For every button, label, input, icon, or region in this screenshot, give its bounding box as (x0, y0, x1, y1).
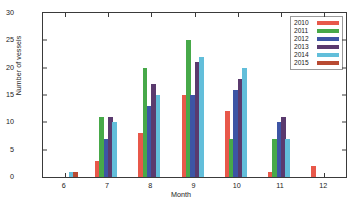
x-axis-tick-label: 12 (308, 181, 338, 190)
y-axis-title: Number of vessels (15, 0, 22, 136)
legend-item[interactable]: 2014 (294, 51, 339, 59)
x-axis-title: Month (0, 190, 362, 199)
legend-color-swatch (317, 61, 339, 66)
legend-item-label: 2012 (294, 35, 313, 43)
x-axis-tick-mark (151, 13, 152, 17)
y-axis-tick-label: 30 (0, 8, 14, 17)
legend-item-label: 2010 (294, 19, 313, 27)
legend-item-label: 2014 (294, 51, 313, 59)
y-axis-tick-mark (342, 95, 346, 96)
y-axis-tick-mark (342, 40, 346, 41)
y-axis-tick-label: 25 (0, 35, 14, 44)
x-axis-tick-mark (324, 13, 325, 17)
legend-color-swatch (317, 37, 339, 42)
x-axis-tick-mark (324, 173, 325, 177)
y-axis-tick-label: 15 (0, 90, 14, 99)
chart-figure: Number of vessels 2010201120122013201420… (0, 0, 362, 221)
bar (199, 57, 204, 177)
legend-item[interactable]: 2011 (294, 27, 339, 35)
bar (112, 122, 117, 177)
legend-item[interactable]: 2010 (294, 19, 339, 27)
bar (156, 95, 161, 177)
y-axis-tick-mark (342, 67, 346, 68)
legend-color-swatch (317, 21, 339, 26)
y-axis-tick-mark (342, 149, 346, 150)
plot-frame: 201020112012201320142015 (42, 12, 347, 178)
bar (73, 172, 78, 177)
x-axis-tick-label: 10 (222, 181, 252, 190)
x-axis-tick-label: 11 (265, 181, 295, 190)
x-axis-tick-mark (195, 13, 196, 17)
legend-item[interactable]: 2015 (294, 59, 339, 67)
legend-item-label: 2013 (294, 43, 313, 51)
y-axis-tick-label: 5 (0, 144, 14, 153)
legend-item-label: 2011 (294, 27, 313, 35)
x-axis-tick-mark (238, 13, 239, 17)
y-axis-tick-mark (43, 122, 47, 123)
x-axis-tick-mark (65, 13, 66, 17)
legend-item-label: 2015 (294, 59, 313, 67)
y-axis-tick-mark (342, 122, 346, 123)
y-axis-tick-label: 10 (0, 117, 14, 126)
legend-color-swatch (317, 53, 339, 58)
y-axis-tick-label: 20 (0, 62, 14, 71)
x-axis-tick-label: 7 (92, 181, 122, 190)
x-axis-tick-label: 9 (179, 181, 209, 190)
x-axis-tick-label: 6 (49, 181, 79, 190)
legend-item[interactable]: 2012 (294, 35, 339, 43)
y-axis-tick-mark (43, 40, 47, 41)
y-axis-tick-mark (43, 149, 47, 150)
bar (311, 166, 316, 177)
x-axis-tick-mark (281, 13, 282, 17)
bar (242, 68, 247, 177)
x-axis-tick-mark (108, 13, 109, 17)
legend-color-swatch (317, 29, 339, 34)
y-axis-tick-mark (43, 95, 47, 96)
x-axis-tick-mark (65, 173, 66, 177)
legend-item[interactable]: 2013 (294, 43, 339, 51)
chart-legend: 201020112012201320142015 (290, 16, 343, 70)
bar (285, 139, 290, 177)
x-axis-tick-label: 8 (135, 181, 165, 190)
legend-color-swatch (317, 45, 339, 50)
y-axis-tick-mark (43, 67, 47, 68)
y-axis-tick-label: 0 (0, 172, 14, 181)
